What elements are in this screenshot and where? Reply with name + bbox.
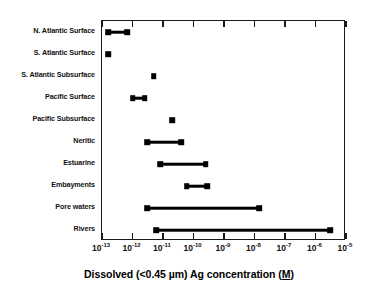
x-tick-label-7: 10-6 [307, 243, 322, 253]
range-marker-high [179, 139, 185, 145]
range-marker-low [130, 95, 136, 101]
y-axis-label-9: Rivers [74, 225, 95, 233]
y-axis-label-1: S. Atlantic Surface [34, 49, 95, 57]
y-axis-label-7: Embayments [51, 181, 95, 189]
point-marker [169, 117, 175, 123]
range-line [160, 163, 206, 166]
range-marker-low [144, 139, 150, 145]
plot-area [101, 20, 345, 240]
y-axis-label-0: N. Atlantic Surface [33, 27, 95, 35]
tick-bottom-neg6 [315, 233, 316, 239]
x-tick-label-8: 10-5 [338, 243, 353, 253]
tick-bottom-neg12 [132, 233, 133, 239]
x-tick-label-5: 10-8 [246, 243, 261, 253]
tick-bottom-neg7 [284, 233, 285, 239]
range-marker-high [327, 227, 333, 233]
x-tick-label-1: 10-12 [122, 243, 140, 253]
point-marker [105, 51, 111, 57]
tick-bottom-neg10 [193, 233, 194, 239]
tick-top-neg12 [132, 21, 133, 27]
range-marker-low [144, 205, 150, 211]
tick-bottom-neg9 [223, 233, 224, 239]
y-axis-label-3: Pacific Surface [45, 93, 95, 101]
y-axis-label-8: Pore waters [55, 203, 95, 211]
range-line [156, 229, 330, 232]
y-axis-label-6: Estuarine [63, 159, 95, 167]
tick-top-neg5 [345, 21, 346, 27]
range-marker-low [184, 183, 190, 189]
y-axis-label-2: S. Atlantic Subsurface [21, 71, 95, 79]
y-axis-label-5: Neritic [73, 137, 95, 145]
range-marker-high [142, 95, 148, 101]
range-line [147, 141, 181, 144]
tick-top-neg8 [254, 21, 255, 27]
chart-figure: N. Atlantic SurfaceS. Atlantic SurfaceS.… [0, 0, 378, 296]
x-axis-title-unit: M [282, 268, 291, 280]
tick-bottom-neg8 [254, 233, 255, 239]
tick-bottom-neg13 [101, 233, 102, 239]
tick-top-neg6 [315, 21, 316, 27]
x-axis-tick-labels: 10-1310-1210-1110-1010-910-810-710-610-5 [101, 243, 345, 259]
range-marker-low [105, 29, 111, 35]
point-marker [151, 73, 157, 79]
x-tick-label-3: 10-10 [183, 243, 201, 253]
tick-top-neg7 [284, 21, 285, 27]
x-axis-title: Dissolved (<0.45 µm) Ag concentration (M… [0, 268, 378, 280]
tick-top-neg13 [101, 21, 102, 27]
tick-top-neg9 [223, 21, 224, 27]
tick-top-neg11 [162, 21, 163, 27]
range-marker-low [157, 161, 163, 167]
range-marker-high [256, 205, 262, 211]
range-line [147, 207, 259, 210]
x-tick-label-4: 10-9 [216, 243, 231, 253]
tick-bottom-neg11 [162, 233, 163, 239]
x-tick-label-0: 10-13 [92, 243, 110, 253]
range-marker-high [203, 161, 209, 167]
x-tick-label-6: 10-7 [277, 243, 292, 253]
range-marker-low [153, 227, 159, 233]
x-tick-label-2: 10-11 [153, 243, 171, 253]
range-marker-high [124, 29, 130, 35]
tick-top-neg10 [193, 21, 194, 27]
range-marker-high [204, 183, 210, 189]
y-axis-category-labels: N. Atlantic SurfaceS. Atlantic SurfaceS.… [0, 20, 98, 240]
y-axis-label-4: Pacific Subsurface [32, 115, 95, 123]
tick-bottom-neg5 [345, 233, 346, 239]
